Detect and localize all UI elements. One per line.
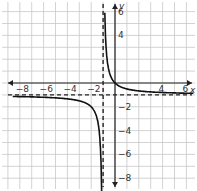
asymptotes <box>8 4 192 187</box>
svg-text:−2: −2 <box>87 84 100 94</box>
svg-text:6: 6 <box>182 84 188 94</box>
x-axis-label: x <box>189 85 196 95</box>
svg-text:−6: −6 <box>40 84 54 94</box>
svg-text:−6: −6 <box>118 149 132 159</box>
svg-text:−8: −8 <box>16 84 30 94</box>
svg-text:4: 4 <box>118 30 124 40</box>
svg-text:−4: −4 <box>118 126 132 136</box>
svg-text:4: 4 <box>159 84 165 94</box>
y-axis-label: y <box>118 1 125 11</box>
graph: −8−6−4−24664−2−4−6−8 x y <box>0 0 197 191</box>
svg-text:−8: −8 <box>118 173 132 183</box>
svg-text:−2: −2 <box>118 102 131 112</box>
svg-text:−4: −4 <box>63 84 77 94</box>
